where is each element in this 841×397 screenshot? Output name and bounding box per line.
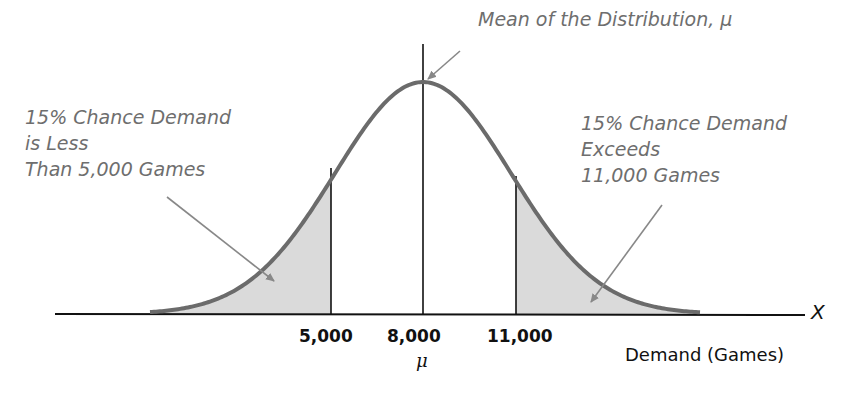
right-tail-annotation: 15% Chance Demand Exceeds 11,000 Games [581,110,787,188]
left-tail-line-1: 15% Chance Demand [25,104,231,130]
mu-label: μ [416,350,428,371]
left-tail-line-2: is Less [25,130,231,156]
left-tail-arrow [167,197,274,281]
left-tail-annotation: 15% Chance Demand is Less Than 5,000 Gam… [25,104,231,182]
right-tail-line-2: Exceeds [581,136,787,162]
mean-arrow [428,51,460,79]
tick-11000: 11,000 [487,326,553,346]
right-tail-line-1: 15% Chance Demand [581,110,787,136]
tick-5000: 5,000 [299,326,353,346]
mean-annotation: Mean of the Distribution, μ [478,6,732,32]
x-axis-label: Demand (Games) [625,344,784,365]
x-axis [55,314,805,315]
left-tail-line-3: Than 5,000 Games [25,156,231,182]
tick-8000: 8,000 [387,326,441,346]
right-tail-arrow [591,205,662,302]
x-variable-label: X [811,300,825,324]
right-tail-line-3: 11,000 Games [581,162,787,188]
